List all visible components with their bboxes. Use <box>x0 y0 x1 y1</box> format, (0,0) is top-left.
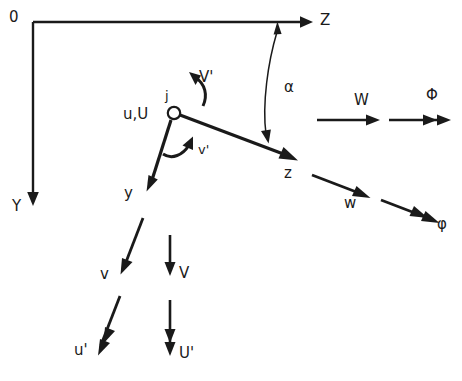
vector-w-line <box>312 175 359 193</box>
label-local-y: y <box>124 186 133 201</box>
vector-v-line <box>126 218 143 262</box>
vector-U-prime-arrowhead-inner <box>165 329 176 343</box>
label-v-prime: v' <box>198 143 209 156</box>
label-phi: φ <box>437 217 447 232</box>
label-v: v <box>100 267 109 282</box>
coordinate-system-diagram: 0 Z Y j u,U α V' v' z y W Φ w φ v V u' U… <box>0 0 462 381</box>
label-joint-displacement: u,U <box>123 107 148 122</box>
alpha-arc-arrowhead-top <box>274 22 282 35</box>
local-axis-z-arrowhead <box>279 147 299 161</box>
label-u-prime: u' <box>74 343 88 358</box>
vector-w-group <box>312 175 371 198</box>
label-w: w <box>344 196 356 211</box>
vector-Phi-arrowhead-inner <box>423 115 437 126</box>
vector-u-prime-group <box>98 296 120 356</box>
label-U-prime: U' <box>179 346 194 361</box>
vector-v-arrowhead <box>121 258 133 275</box>
label-axis-Z: Z <box>320 13 330 28</box>
alpha-arc-arrowhead-bottom <box>261 130 271 144</box>
alpha-arc-group <box>261 22 282 144</box>
vector-U-prime-group <box>165 300 176 356</box>
global-axis-group <box>27 16 313 206</box>
rotation-arrow-v-prime-group <box>163 137 193 157</box>
label-local-z: z <box>284 166 292 181</box>
alpha-arc-path <box>265 32 277 134</box>
vector-Phi-arrowhead-outer <box>437 115 451 126</box>
joint-circle <box>168 107 180 119</box>
label-origin: 0 <box>9 10 19 25</box>
label-Phi: Φ <box>426 88 438 103</box>
vector-u-prime-arrowhead-inner <box>104 327 116 344</box>
vector-u-prime-line <box>101 296 120 345</box>
vector-U-prime-arrowhead-outer <box>165 342 176 356</box>
vector-u-prime-arrowhead-outer <box>98 339 110 356</box>
label-alpha: α <box>284 80 294 95</box>
rotation-arrow-v-prime-path <box>163 145 189 157</box>
local-axis-group <box>147 115 299 192</box>
diagram-canvas <box>0 0 462 381</box>
local-axis-z-line <box>180 115 286 155</box>
local-axis-y-arrowhead <box>147 175 158 192</box>
global-axis-Y-arrowhead <box>27 192 39 206</box>
vector-V-arrowhead <box>165 262 176 276</box>
vector-W-arrowhead <box>366 115 380 126</box>
global-axis-Z-arrowhead <box>300 16 313 28</box>
local-axis-y-line <box>152 120 171 180</box>
vector-V-group <box>165 235 176 276</box>
vector-phi-group <box>381 200 440 223</box>
vector-W-group <box>317 115 380 126</box>
label-joint-j: j <box>165 89 169 102</box>
vector-v-group <box>121 218 144 275</box>
label-V-prime: V' <box>199 70 213 85</box>
label-axis-Y: Y <box>12 199 21 214</box>
label-W: W <box>354 93 369 108</box>
vector-Phi-group <box>389 115 451 126</box>
joint-group <box>168 107 180 119</box>
label-V: V <box>179 266 189 281</box>
